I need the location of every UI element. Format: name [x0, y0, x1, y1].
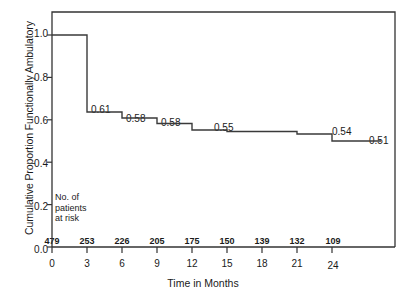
- plot-area: [0, 0, 406, 300]
- x-tick-marks: [52, 247, 332, 253]
- y-tick-marks: [47, 35, 52, 247]
- km-step-curve: [52, 35, 381, 141]
- chart-figure: Cumulative Proportion Functionally Ambul…: [0, 0, 406, 300]
